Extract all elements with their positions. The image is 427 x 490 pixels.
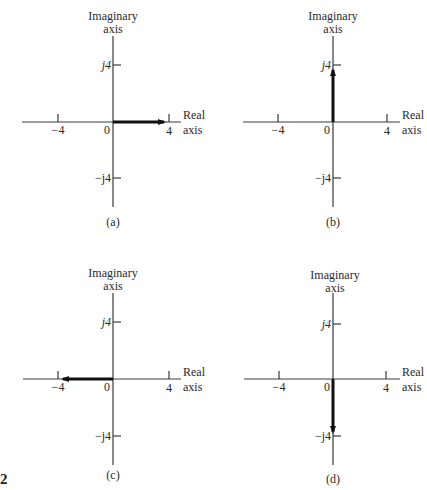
tick-label-neg4: −4: [52, 380, 65, 394]
tick-label-j4: j4: [320, 58, 331, 72]
complex-plane-figure: Imaginary axis Real axis −4 0 4 j4 −j4 (…: [0, 0, 427, 490]
tick-label-j4: j4: [320, 317, 331, 331]
tick-label-neg4: −4: [273, 380, 286, 394]
real-axis-label-2: axis: [183, 380, 203, 394]
real-axis-label-1: Real: [183, 108, 206, 122]
real-axis-label-1: Real: [402, 108, 425, 122]
imag-axis-label-1: Imaginary: [88, 9, 137, 23]
tick-label-pos4: 4: [384, 124, 390, 138]
tick-label-neg4: −4: [52, 123, 65, 137]
imag-axis-label-1: Imaginary: [88, 266, 137, 280]
real-axis-label-2: axis: [402, 380, 422, 394]
panel-c: Imaginary axis Real axis −4 0 4 j4 −j4 (…: [23, 266, 206, 482]
panel-b: Imaginary axis Real axis −4 0 4 j4 −j4 (…: [243, 9, 425, 229]
imag-axis-label-2: axis: [103, 22, 123, 36]
real-axis-label-2: axis: [183, 123, 203, 137]
panel-caption: (a): [106, 215, 119, 229]
real-axis-label-2: axis: [402, 123, 422, 137]
real-axis-label-1: Real: [402, 365, 425, 379]
tick-label-pos4: 4: [166, 381, 172, 395]
imag-axis-label-2: axis: [323, 22, 343, 36]
tick-label-neg-j4: −j4: [315, 429, 331, 443]
panel-caption: (b): [326, 215, 340, 229]
figure-number: 2: [0, 471, 8, 487]
tick-label-origin: 0: [104, 123, 110, 137]
tick-label-neg-j4: −j4: [95, 171, 111, 185]
panel-d: Imaginary axis Real axis −4 0 4 j4 −j4 (…: [244, 268, 425, 486]
panel-a: Imaginary axis Real axis −4 0 4 j4 −j4 (…: [22, 9, 206, 229]
tick-label-pos4: 4: [383, 381, 389, 395]
tick-label-origin: 0: [324, 380, 330, 394]
real-axis-label-1: Real: [183, 365, 206, 379]
panel-caption: (d): [326, 472, 340, 486]
tick-label-j4: j4: [100, 315, 111, 329]
tick-label-origin: 0: [324, 123, 330, 137]
imag-axis-label-1: Imaginary: [308, 9, 357, 23]
imag-axis-label-1: Imaginary: [310, 268, 359, 282]
imag-axis-label-2: axis: [103, 279, 123, 293]
tick-label-origin: 0: [104, 380, 110, 394]
tick-label-neg-j4: −j4: [315, 171, 331, 185]
tick-label-neg4: −4: [272, 123, 285, 137]
tick-label-j4: j4: [100, 58, 111, 72]
tick-label-pos4: 4: [166, 124, 172, 138]
tick-label-neg-j4: −j4: [95, 429, 111, 443]
panel-caption: (c): [106, 468, 119, 482]
imag-axis-label-2: axis: [325, 281, 345, 295]
